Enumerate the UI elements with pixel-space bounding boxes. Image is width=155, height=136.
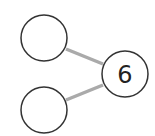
- whole-label: 6: [117, 61, 132, 89]
- whole: 6: [102, 51, 148, 97]
- part-top[interactable]: [21, 15, 67, 61]
- part-top-circle[interactable]: [21, 15, 67, 61]
- connector-top: [66, 49, 103, 64]
- connector-bottom: [66, 85, 103, 100]
- part-bottom[interactable]: [21, 87, 67, 133]
- part-bottom-circle[interactable]: [21, 87, 67, 133]
- number-bond-diagram: 6: [0, 0, 155, 136]
